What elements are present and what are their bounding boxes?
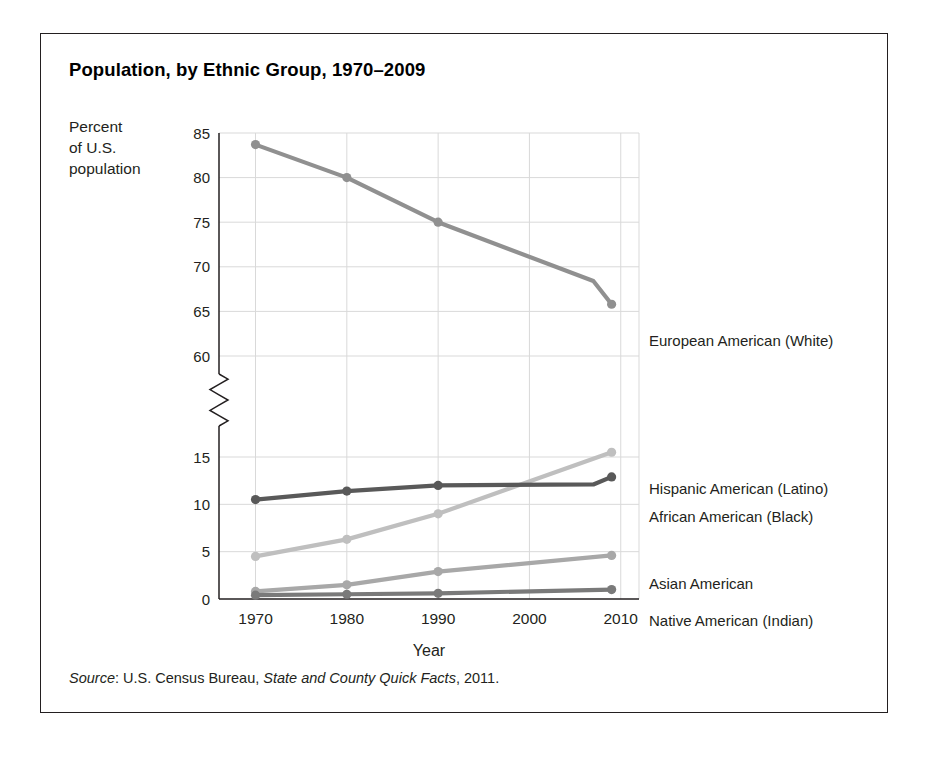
data-point-marker — [251, 552, 260, 561]
y-tick-label: 60 — [193, 348, 210, 365]
series-label: European American (White) — [649, 332, 833, 349]
data-point-marker — [342, 590, 351, 599]
x-tick-label: 1980 — [330, 610, 365, 627]
data-point-marker — [607, 585, 616, 594]
source-work: State and County Quick Facts — [263, 670, 456, 686]
data-point-marker — [607, 551, 616, 560]
series-label: Hispanic American (Latino) — [649, 480, 828, 497]
y-tick-label: 15 — [193, 449, 210, 466]
y-tick-label: 65 — [193, 303, 210, 320]
y-tick-label: 80 — [193, 169, 210, 186]
y-tick-label: 70 — [193, 258, 210, 275]
x-axis-title: Year — [413, 642, 446, 659]
data-point-marker — [251, 495, 260, 504]
y-tick-label: 85 — [193, 125, 210, 142]
data-line — [256, 590, 612, 596]
data-point-marker — [434, 589, 443, 598]
y-tick-label: 75 — [193, 214, 210, 231]
source-label: Source — [69, 670, 115, 686]
data-point-marker — [434, 509, 443, 518]
data-line — [256, 477, 612, 500]
data-point-marker — [342, 580, 351, 589]
figure-frame: Population, by Ethnic Group, 1970–2009 P… — [40, 33, 888, 713]
y-tick-label: 10 — [193, 496, 210, 513]
y-tick-label: 0 — [202, 591, 210, 608]
data-point-marker — [607, 300, 616, 309]
source-separator: : — [115, 670, 123, 686]
y-tick-label: 5 — [202, 543, 210, 560]
data-point-marker — [607, 448, 616, 457]
data-point-marker — [434, 481, 443, 490]
data-point-marker — [342, 535, 351, 544]
data-point-marker — [607, 472, 616, 481]
x-tick-label: 1970 — [238, 610, 273, 627]
data-point-marker — [342, 486, 351, 495]
data-point-marker — [251, 140, 260, 149]
data-point-marker — [434, 567, 443, 576]
data-point-marker — [251, 591, 260, 600]
data-line — [256, 555, 612, 591]
series-label: Native American (Indian) — [649, 612, 813, 629]
data-point-marker — [342, 173, 351, 182]
x-tick-label: 1990 — [421, 610, 456, 627]
data-line — [256, 145, 612, 305]
y-axis-break-icon — [210, 374, 228, 426]
x-tick-label: 2000 — [512, 610, 547, 627]
series-label: Asian American — [649, 575, 753, 592]
source-year: , 2011. — [456, 670, 499, 686]
series-label: African American (Black) — [649, 508, 813, 525]
source-note: Source: U.S. Census Bureau, State and Co… — [69, 670, 499, 686]
data-point-marker — [434, 218, 443, 227]
source-publisher: U.S. Census Bureau, — [123, 670, 263, 686]
x-tick-label: 2010 — [603, 610, 638, 627]
